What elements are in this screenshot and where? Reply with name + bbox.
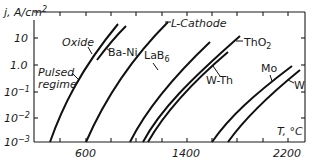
label-ba-ni: Ba-Ni [108,46,138,59]
curve-lab6 [130,42,210,142]
x-axis-label: T, °C [277,125,303,138]
curve-l-cathode [86,22,168,142]
label-w-th: W-Th [206,74,233,87]
leader-lab6 [153,63,158,70]
emission-chart: j, A/cm2 10 1.0 10−1 10−2 10−3 600 1400 … [0,0,315,161]
label-oxide: Oxide [62,36,94,49]
x-tick-600: 600 [75,147,96,160]
y-tick-1e-3: 10−3 [4,135,30,149]
label-l-cathode: L-Cathode [171,17,227,30]
y-axis-label: j, A/cm2 [2,5,47,19]
y-tick-1e-2: 10−2 [4,111,30,125]
annotation-regime: regime [38,78,77,91]
y-tick-10: 10 [14,32,28,45]
y-tick-1e-1: 10−1 [4,85,30,99]
top-ticks [60,12,288,16]
label-mo: Mo [261,62,277,75]
label-tho2: ThO2 [243,36,271,51]
plot-frame [34,12,305,142]
y-tick-1: 1.0 [10,59,28,72]
label-lab6: LaB6 [144,49,170,64]
bottom-ticks [60,138,288,142]
leader-mo [270,75,272,81]
x-tick-2200: 2200 [273,147,301,160]
x-tick-1400: 1400 [172,147,200,160]
right-ticks [301,38,305,118]
label-w: W [294,79,305,92]
